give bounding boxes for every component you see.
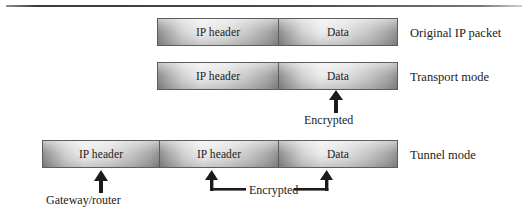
cell-label: IP header (196, 26, 240, 38)
packet-cell-tunnel-data: Data (278, 141, 397, 167)
packet-bar-transport: IP header Data (157, 62, 398, 90)
transport-encrypted-arrow-icon (325, 90, 349, 114)
row-caption-tunnel-mode: Tunnel mode (410, 148, 476, 163)
packet-bar-tunnel: IP header IP header Data (42, 140, 398, 168)
cell-label: Data (327, 70, 349, 82)
annotation-transport-encrypted: Encrypted (304, 113, 353, 128)
annotation-gateway-router: Gateway/router (46, 193, 121, 208)
cell-label: Data (327, 148, 349, 160)
cell-label: IP header (197, 148, 241, 160)
packet-cell-tunnel-outer-ip-header: IP header (43, 141, 159, 167)
packet-cell-transport-data: Data (278, 63, 397, 89)
cell-label: Data (327, 26, 349, 38)
packet-cell-transport-ip-header: IP header (158, 63, 278, 89)
packet-cell-tunnel-inner-ip-header: IP header (159, 141, 278, 167)
top-divider-rule (6, 5, 522, 7)
packet-bar-original: IP header Data (157, 18, 398, 46)
row-caption-transport-mode: Transport mode (410, 70, 489, 85)
row-caption-original-ip-packet: Original IP packet (410, 26, 501, 41)
cell-label: IP header (79, 148, 123, 160)
packet-cell-original-data: Data (278, 19, 397, 45)
ipsec-packet-diagram: IP header Data Original IP packet IP hea… (0, 0, 526, 224)
cell-label: IP header (196, 70, 240, 82)
gateway-router-arrow-icon (92, 170, 114, 194)
packet-cell-original-ip-header: IP header (158, 19, 278, 45)
annotation-tunnel-encrypted: Encrypted (249, 183, 298, 198)
